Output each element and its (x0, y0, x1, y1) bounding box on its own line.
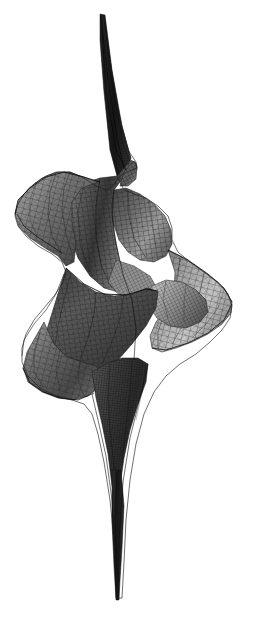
surface-wireframe-plot (0, 0, 253, 617)
caption-fragment (0, 611, 253, 617)
figure-page (0, 0, 253, 617)
